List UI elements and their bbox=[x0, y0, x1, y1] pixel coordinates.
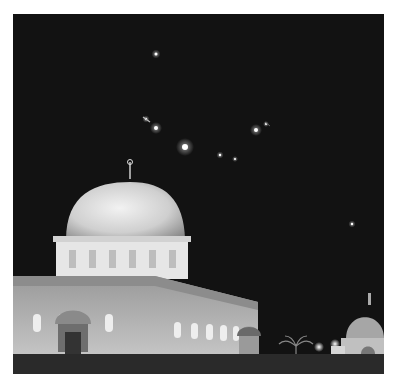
sky-light bbox=[234, 158, 236, 160]
ground bbox=[13, 354, 384, 374]
sky-light bbox=[155, 53, 158, 56]
sky-light bbox=[219, 154, 221, 156]
lamp-glow bbox=[314, 342, 324, 352]
small-kiosk bbox=[237, 327, 261, 355]
night-photo bbox=[13, 14, 384, 374]
photo-scene bbox=[13, 14, 384, 374]
sky-light bbox=[154, 126, 158, 130]
sky-light bbox=[254, 128, 258, 132]
sky-light bbox=[351, 223, 353, 225]
sky-light bbox=[182, 144, 188, 150]
